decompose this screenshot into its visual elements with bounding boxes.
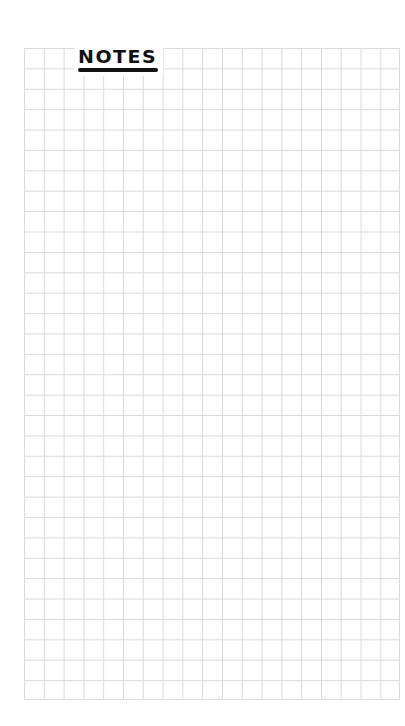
page-title: NOTES — [78, 47, 157, 66]
title-underline — [78, 68, 158, 72]
graph-paper-grid — [24, 48, 400, 700]
notes-page: NOTES — [0, 0, 405, 726]
